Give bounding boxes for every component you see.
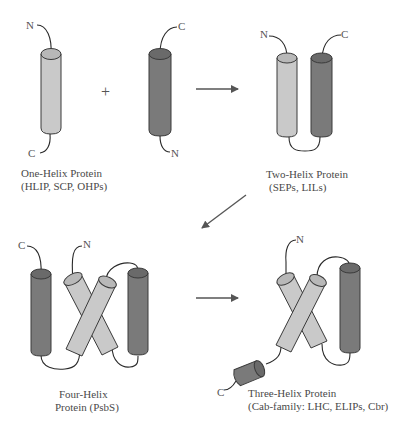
four-helix-protein <box>27 246 148 369</box>
plus-sign: + <box>101 83 110 100</box>
three-helix-protein <box>224 240 360 390</box>
arrow-down-left-icon <box>202 195 246 228</box>
n-terminus-label: N <box>83 238 91 250</box>
three-helix-subtitle: (Cab-family: LHC, ELIPs, Cbr) <box>248 400 389 413</box>
four-helix-title: Four-Helix <box>59 388 108 400</box>
c-terminus-label: C <box>217 386 224 398</box>
c-terminus-label: C <box>341 28 348 40</box>
one-helix-dark-cylinder <box>149 27 177 152</box>
c-terminus-label: C <box>18 239 25 251</box>
c-terminus-label: C <box>178 20 185 32</box>
n-terminus-label: N <box>296 233 304 245</box>
n-terminus-tail <box>160 136 170 152</box>
two-helix-title: Two-Helix Protein <box>266 168 349 180</box>
one-helix-subtitle: (HLIP, SCP, OHPs) <box>21 180 108 193</box>
n-terminus-label: N <box>26 19 34 31</box>
two-helix-protein <box>269 35 341 151</box>
c-terminus-label: C <box>28 147 35 159</box>
helix-evolution-diagram: N C + C N One-Helix Protein (HLIP, SCP, … <box>0 0 402 429</box>
one-helix-light-cylinder <box>37 25 61 153</box>
n-terminus-label: N <box>171 147 179 159</box>
three-helix-title: Three-Helix Protein <box>248 387 337 399</box>
four-helix-subtitle: Protein (PsbS) <box>55 401 119 414</box>
two-helix-subtitle: (SEPs, LILs) <box>269 181 327 194</box>
one-helix-title: One-Helix Protein <box>21 167 102 179</box>
n-terminus-label: N <box>260 28 268 40</box>
c-terminus-tail <box>40 134 50 153</box>
